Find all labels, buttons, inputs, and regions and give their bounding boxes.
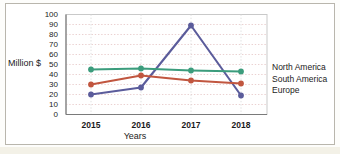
legend-item-europe: Europe [272, 85, 327, 97]
line-chart: Million $ 100 90 80 70 60 50 40 30 20 10… [0, 0, 340, 154]
x-tick-label-2016: 2016 [121, 120, 161, 130]
chart-figure: Million $ 100 90 80 70 60 50 40 30 20 10… [0, 0, 340, 154]
x-axis-title: Years [0, 131, 270, 141]
legend-item-north-america: North America [272, 62, 327, 74]
x-tick-label-2015: 2015 [71, 120, 111, 130]
x-tick-label-2018: 2018 [221, 120, 261, 130]
legend-item-south-america: South America [272, 74, 327, 86]
x-tick-label-2017: 2017 [171, 120, 211, 130]
chart-legend: North America South America Europe [272, 62, 327, 97]
